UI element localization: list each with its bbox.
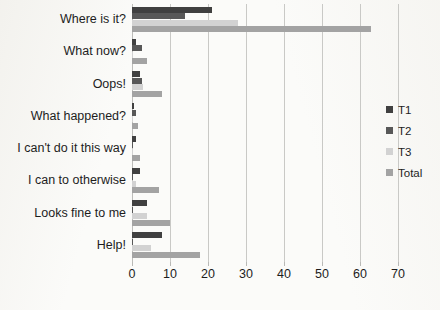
category-label: What now?: [2, 44, 126, 58]
bar: [132, 91, 162, 97]
legend-label: Total: [398, 167, 422, 179]
bar: [132, 220, 170, 226]
tick-label-60: 60: [353, 267, 367, 281]
bar: [132, 78, 142, 84]
tick-mark-40: [284, 262, 285, 266]
category-label: Help!: [2, 238, 126, 252]
tick-label-20: 20: [201, 267, 215, 281]
bar: [132, 142, 133, 148]
bar-group: [132, 165, 398, 197]
tick-label-40: 40: [277, 267, 291, 281]
bar-group: [132, 133, 398, 165]
legend-swatch-icon: [386, 127, 393, 134]
x-axis: 010203040506070: [132, 262, 398, 288]
category-label: Where is it?: [2, 12, 126, 26]
bar: [132, 174, 133, 180]
bar: [132, 52, 133, 58]
tick-label-10: 10: [163, 267, 177, 281]
bar: [132, 58, 147, 64]
bar: [132, 13, 185, 19]
bar: [132, 71, 140, 77]
bar: [132, 39, 136, 45]
bar: [132, 7, 212, 13]
legend-item-total[interactable]: Total: [386, 162, 438, 183]
legend-label: T3: [398, 146, 411, 158]
tick-mark-10: [170, 262, 171, 266]
legend-label: T2: [398, 125, 411, 137]
bar: [132, 207, 133, 213]
bar: [132, 213, 147, 219]
tick-label-0: 0: [129, 267, 136, 281]
chart-legend: T1T2T3Total: [386, 99, 438, 183]
bar: [132, 110, 136, 116]
tick-mark-70: [398, 262, 399, 266]
tick-label-50: 50: [315, 267, 329, 281]
category-label: Looks fine to me: [2, 206, 126, 220]
legend-item-t3[interactable]: T3: [386, 141, 438, 162]
bar: [132, 45, 142, 51]
category-label: Oops!: [2, 77, 126, 91]
plot-area: [132, 4, 398, 262]
bar: [132, 123, 138, 129]
bar-group: [132, 4, 398, 36]
legend-swatch-icon: [386, 169, 393, 176]
bar: [132, 232, 162, 238]
bar: [132, 168, 140, 174]
tick-mark-20: [208, 262, 209, 266]
bar-group: [132, 230, 398, 262]
bar: [132, 103, 134, 109]
bar-group: [132, 36, 398, 68]
legend-item-t2[interactable]: T2: [386, 120, 438, 141]
bar-group: [132, 69, 398, 101]
bar: [132, 187, 159, 193]
category-label: What happened?: [2, 109, 126, 123]
bar: [132, 239, 133, 245]
bar: [132, 116, 133, 122]
bar: [132, 149, 133, 155]
tick-mark-50: [322, 262, 323, 266]
legend-swatch-icon: [386, 106, 393, 113]
bar: [132, 245, 151, 251]
bar-chart: Where is it?What now?Oops!What happened?…: [0, 0, 440, 310]
bar: [132, 181, 136, 187]
category-label: I can't do it this way: [2, 141, 126, 155]
bar: [132, 136, 136, 142]
bar: [132, 155, 140, 161]
bar-group: [132, 101, 398, 133]
bar: [132, 26, 371, 32]
legend-label: T1: [398, 104, 411, 116]
bar: [132, 84, 143, 90]
legend-swatch-icon: [386, 148, 393, 155]
bar: [132, 252, 200, 258]
tick-label-70: 70: [391, 267, 405, 281]
tick-mark-0: [132, 262, 133, 266]
legend-item-t1[interactable]: T1: [386, 99, 438, 120]
tick-mark-60: [360, 262, 361, 266]
tick-label-30: 30: [239, 267, 253, 281]
bar-group: [132, 198, 398, 230]
category-axis-labels: Where is it?What now?Oops!What happened?…: [0, 4, 126, 262]
bar: [132, 200, 147, 206]
tick-mark-30: [246, 262, 247, 266]
category-label: I can to otherwise: [2, 173, 126, 187]
bar: [132, 20, 238, 26]
